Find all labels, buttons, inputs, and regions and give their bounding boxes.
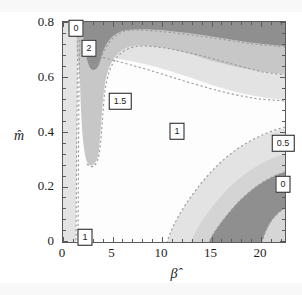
y-tick-right-0 bbox=[280, 241, 285, 242]
y-tick-minor bbox=[63, 143, 66, 144]
x-tick-minor bbox=[132, 239, 133, 242]
x-tick-minor bbox=[202, 239, 203, 242]
x-tick-minor bbox=[142, 239, 143, 242]
x-tick-top-minor bbox=[93, 22, 94, 25]
x-tick-minor bbox=[182, 239, 183, 242]
y-tick-0p8 bbox=[63, 22, 68, 23]
x-tick-label-20: 20 bbox=[254, 245, 267, 261]
scan-artifact-band-bottom bbox=[0, 283, 302, 295]
y-tick-label-0p4: 0.4 bbox=[38, 124, 54, 140]
contour-label-0-top: 0 bbox=[68, 20, 83, 37]
y-tick-label-0: 0 bbox=[48, 233, 55, 249]
y-tick-label-0p6: 0.6 bbox=[38, 69, 54, 85]
y-tick-minor bbox=[63, 176, 66, 177]
y-tick-right-minor bbox=[282, 55, 285, 56]
y-tick-minor bbox=[63, 208, 66, 209]
y-tick-right-minor bbox=[282, 99, 285, 100]
x-tick-top-minor bbox=[122, 22, 123, 25]
y-tick-right-minor bbox=[282, 33, 285, 34]
contour-label-0-right: 0 bbox=[275, 176, 290, 193]
x-tick-20 bbox=[261, 237, 262, 242]
x-tick-label-5: 5 bbox=[108, 245, 115, 261]
y-tick-minor bbox=[63, 219, 66, 220]
x-tick-top-minor bbox=[103, 22, 104, 25]
y-tick-right-minor bbox=[282, 219, 285, 220]
y-axis-title: m̂ bbox=[14, 128, 24, 144]
x-tick-top-minor bbox=[202, 22, 203, 25]
y-tick-right-0p6 bbox=[280, 77, 285, 78]
y-tick-minor bbox=[63, 55, 66, 56]
y-tick-minor bbox=[63, 99, 66, 100]
y-tick-minor bbox=[63, 110, 66, 111]
y-tick-0p2 bbox=[63, 187, 68, 188]
x-tick-top-minor bbox=[251, 22, 252, 25]
x-tick-top-minor bbox=[172, 22, 173, 25]
y-tick-minor bbox=[63, 230, 66, 231]
y-tick-minor bbox=[63, 197, 66, 198]
x-tick-top-5 bbox=[113, 22, 114, 27]
x-tick-top-minor bbox=[241, 22, 242, 25]
x-tick-minor bbox=[192, 239, 193, 242]
x-tick-5 bbox=[113, 237, 114, 242]
y-tick-minor bbox=[63, 154, 66, 155]
scan-artifact-band-top bbox=[0, 0, 302, 12]
y-tick-minor bbox=[63, 121, 66, 122]
contour-label-0p5: 0.5 bbox=[272, 135, 295, 152]
x-tick-label-15: 15 bbox=[204, 245, 217, 261]
y-tick-minor bbox=[63, 165, 66, 166]
x-tick-15 bbox=[212, 237, 213, 242]
y-tick-label-0p8: 0.8 bbox=[38, 14, 54, 30]
x-tick-label-10: 10 bbox=[155, 245, 168, 261]
y-tick-minor bbox=[63, 88, 66, 89]
y-tick-right-minor bbox=[282, 208, 285, 209]
x-tick-top-minor bbox=[192, 22, 193, 25]
y-tick-right-minor bbox=[282, 66, 285, 67]
y-tick-right-0p4 bbox=[280, 132, 285, 133]
y-tick-right-minor bbox=[282, 110, 285, 111]
x-tick-minor bbox=[122, 239, 123, 242]
x-tick-top-minor bbox=[221, 22, 222, 25]
x-tick-minor bbox=[241, 239, 242, 242]
x-tick-minor bbox=[231, 239, 232, 242]
y-tick-right-minor bbox=[282, 121, 285, 122]
x-tick-top-minor bbox=[231, 22, 232, 25]
x-tick-minor bbox=[221, 239, 222, 242]
contour-label-1-center: 1 bbox=[169, 123, 184, 140]
y-tick-0p6 bbox=[63, 77, 68, 78]
y-tick-0 bbox=[63, 241, 68, 242]
y-tick-0p4 bbox=[63, 132, 68, 133]
x-tick-top-minor bbox=[182, 22, 183, 25]
x-tick-top-minor bbox=[132, 22, 133, 25]
y-tick-right-minor bbox=[282, 44, 285, 45]
contour-label-2: 2 bbox=[81, 40, 96, 57]
y-tick-minor bbox=[63, 33, 66, 34]
y-tick-right-minor bbox=[282, 197, 285, 198]
x-tick-top-15 bbox=[212, 22, 213, 27]
x-tick-10 bbox=[162, 237, 163, 242]
y-tick-minor bbox=[63, 66, 66, 67]
y-tick-right-minor bbox=[282, 154, 285, 155]
x-tick-minor bbox=[271, 239, 272, 242]
contour-figure: 0 2 1.5 1 0.5 0 1 0 5 10 15 20 0 0.2 0.4… bbox=[0, 0, 302, 295]
x-tick-label-0: 0 bbox=[59, 245, 66, 261]
x-tick-minor bbox=[93, 239, 94, 242]
x-axis-title: β̂ bbox=[171, 266, 178, 282]
x-tick-minor bbox=[103, 239, 104, 242]
y-tick-right-minor bbox=[282, 165, 285, 166]
x-tick-minor bbox=[152, 239, 153, 242]
y-tick-label-0p2: 0.2 bbox=[38, 178, 54, 194]
contour-label-1p5: 1.5 bbox=[109, 93, 132, 110]
y-tick-minor bbox=[63, 44, 66, 45]
x-tick-top-20 bbox=[261, 22, 262, 27]
y-tick-right-0p8 bbox=[280, 22, 285, 23]
x-tick-minor bbox=[251, 239, 252, 242]
y-tick-right-minor bbox=[282, 88, 285, 89]
x-tick-top-minor bbox=[152, 22, 153, 25]
x-tick-top-minor bbox=[271, 22, 272, 25]
y-tick-right-minor bbox=[282, 230, 285, 231]
x-tick-minor bbox=[172, 239, 173, 242]
x-tick-minor bbox=[73, 239, 74, 242]
x-tick-top-minor bbox=[142, 22, 143, 25]
x-tick-top-10 bbox=[162, 22, 163, 27]
contour-label-1-bottom: 1 bbox=[77, 229, 92, 246]
